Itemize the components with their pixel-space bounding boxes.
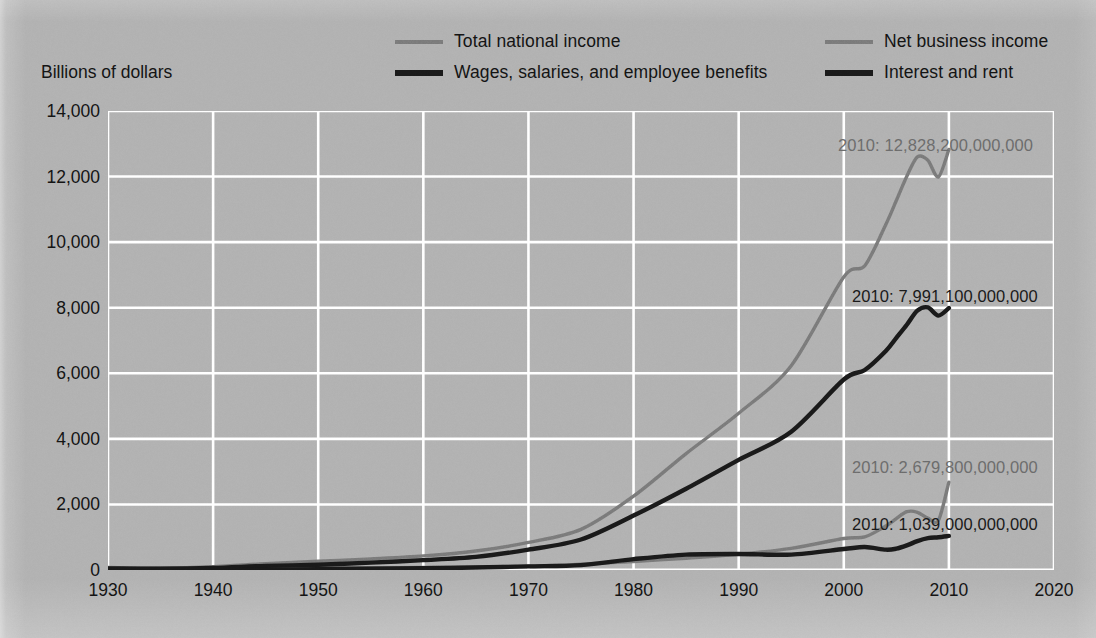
data-value-annotation: 2010: 2,679,800,000,000 [852, 458, 1038, 477]
data-value-annotation: 2010: 7,991,100,000,000 [852, 287, 1038, 306]
legend-item-wages-salaries-and-employee-benefits[interactable]: Wages, salaries, and employee benefits [395, 62, 825, 83]
line-swatch-gray-icon [825, 40, 873, 44]
x-axis-tick-label: 2000 [824, 580, 863, 601]
line-swatch-black-icon [395, 70, 443, 76]
chart-figure: Total national income Net business incom… [0, 0, 1096, 638]
x-axis-tick-label: 1960 [404, 580, 443, 601]
x-axis-tick-label: 2020 [1035, 580, 1074, 601]
y-axis-tick-label: 4,000 [28, 428, 100, 449]
data-value-annotation: 2010: 12,828,200,000,000 [838, 136, 1033, 155]
legend-label: Interest and rent [884, 62, 1013, 83]
line-swatch-black-icon [825, 70, 873, 76]
legend-item-interest-and-rent[interactable]: Interest and rent [825, 62, 1065, 83]
legend-item-net-business-income[interactable]: Net business income [825, 31, 1065, 52]
data-value-annotation: 2010: 1,039,000,000,000 [852, 515, 1038, 534]
x-axis-tick-label: 1950 [299, 580, 338, 601]
line-swatch-gray-icon [395, 40, 443, 44]
x-axis-tick-label: 2010 [929, 580, 968, 601]
legend-label: Net business income [884, 31, 1048, 52]
x-axis-tick-label: 1980 [614, 580, 653, 601]
legend-item-total-national-income[interactable]: Total national income [395, 31, 825, 52]
y-axis-tick-label: 8,000 [28, 297, 100, 318]
x-axis-tick-label: 1930 [89, 580, 128, 601]
legend-label: Total national income [454, 31, 621, 52]
x-axis-tick-label: 1970 [509, 580, 548, 601]
grid-lines [108, 111, 1054, 570]
y-axis-tick-label: 6,000 [28, 363, 100, 384]
chart-canvas [108, 111, 1054, 570]
y-axis-tick-labels: 02,0004,0006,0008,00010,00012,00014,000 [20, 0, 100, 638]
plot-area [108, 111, 1054, 570]
y-axis-tick-label: 2,000 [28, 494, 100, 515]
legend-label: Wages, salaries, and employee benefits [454, 62, 767, 83]
y-axis-tick-label: 10,000 [28, 232, 100, 253]
x-axis-tick-label: 1940 [194, 580, 233, 601]
y-axis-tick-label: 14,000 [28, 101, 100, 122]
x-axis-tick-label: 1990 [719, 580, 758, 601]
y-axis-tick-label: 12,000 [28, 166, 100, 187]
y-axis-tick-label: 0 [28, 560, 100, 581]
chart-legend: Total national income Net business incom… [395, 26, 1065, 88]
